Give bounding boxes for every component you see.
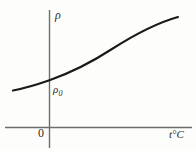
resistivity-temperature-figure: ρ ρ0 0 t°C [0,0,196,150]
plot-canvas [0,0,196,150]
resistivity-curve [13,17,178,91]
x-axis-label: t°C [169,129,184,140]
y-axis-label: ρ [55,9,61,21]
rho-zero-label: ρ0 [53,84,62,98]
origin-label: 0 [38,127,44,139]
rho-zero-subscript: 0 [58,89,62,98]
